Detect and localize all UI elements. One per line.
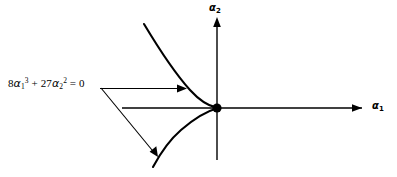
alpha-1-axis [122,104,362,112]
alpha-2-axis [213,17,221,160]
alpha-1-axis-label: α1 [372,101,384,113]
equation-coefficient-b: 27 [41,77,52,89]
alpha-1-axis-label-subscript: 1 [379,105,384,113]
curve-equation-label: 8α13 + 27α22 = 0 [8,77,85,91]
origin-cusp-dot [212,103,221,112]
alpha-2-axis-label: α2 [209,3,221,15]
alpha-2-axis-label-text: α [209,2,216,13]
equation-plus: + [32,77,38,89]
cusp-curve-lower-branch [153,109,217,167]
equation-rhs: 0 [79,77,85,89]
leader-arrow-lower [101,88,158,157]
equation-variable-a: α [14,77,21,90]
leader-arrow-upper [100,85,187,93]
cusp-curve-upper-branch [144,24,217,108]
alpha-1-axis-label-text: α [372,100,379,111]
alpha-1-axis-arrowhead [352,104,362,112]
alpha-2-axis-label-subscript: 2 [216,7,221,15]
alpha-2-axis-arrowhead [213,17,221,27]
